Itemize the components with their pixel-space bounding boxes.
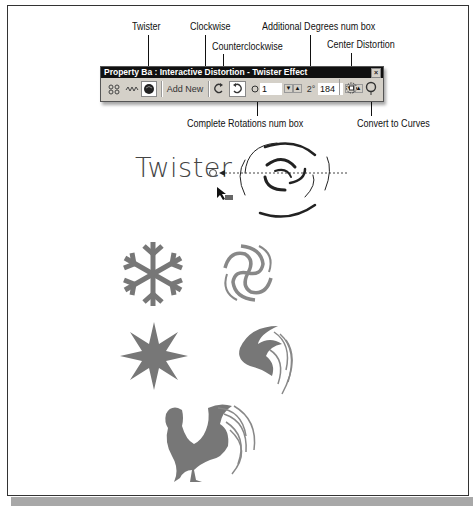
- rotations-spin-down[interactable]: ▼: [284, 84, 293, 93]
- twister-icon: [142, 82, 156, 96]
- cursor-icon: [217, 187, 233, 200]
- clockwise-button[interactable]: [211, 81, 227, 97]
- rotations-label: [250, 81, 260, 97]
- add-new-button[interactable]: Add New: [165, 81, 205, 97]
- close-button[interactable]: ×: [371, 68, 381, 78]
- property-bar-title: Property Ba : Interactive Distortion - T…: [104, 67, 307, 77]
- callout-counterclockwise: Counterclockwise: [212, 40, 283, 52]
- callout-additional-degrees: Additional Degrees num box: [262, 20, 375, 32]
- rooster-twisted: [160, 400, 260, 486]
- complete-rotations-input[interactable]: 1: [260, 83, 282, 95]
- callout-convert-to-curves: Convert to Curves: [357, 117, 430, 129]
- property-bar-titlebar[interactable]: Property Ba : Interactive Distortion - T…: [101, 67, 383, 78]
- convert-to-curves-button[interactable]: [364, 80, 378, 96]
- push-pull-button[interactable]: [107, 81, 121, 97]
- property-bar: Property Ba : Interactive Distortion - T…: [100, 66, 384, 102]
- rotations-icon: [250, 81, 260, 97]
- twister-interactive-demo: [205, 135, 355, 225]
- zipper-button[interactable]: [125, 81, 139, 97]
- twister-button[interactable]: [141, 81, 157, 97]
- clockwise-icon: [212, 81, 226, 97]
- snowflake-twisted: [215, 240, 281, 306]
- frame-shadow: [11, 497, 473, 506]
- separator: [339, 79, 340, 95]
- counterclockwise-icon: [230, 82, 245, 96]
- callout-complete-rotations: Complete Rotations num box: [187, 117, 303, 129]
- callout-clockwise: Clockwise: [190, 20, 231, 32]
- separator: [208, 81, 210, 97]
- convert-to-curves-icon: [364, 80, 378, 96]
- distortion-center-handle: [210, 170, 217, 177]
- zipper-icon: [125, 81, 139, 97]
- rotations-spin-up[interactable]: ▲: [293, 84, 302, 93]
- callout-center-distortion: Center Distortion: [327, 38, 395, 50]
- star-twisted: [230, 320, 300, 400]
- center-distortion-button[interactable]: [344, 80, 359, 96]
- counterclockwise-button[interactable]: [229, 81, 246, 97]
- center-distortion-icon: [344, 80, 359, 96]
- degrees-icon: 2°: [305, 81, 317, 97]
- callout-twister: Twister: [132, 20, 161, 32]
- star-original: [118, 320, 190, 392]
- push-pull-icon: [107, 81, 121, 97]
- rotation-handle-arrow: [219, 170, 225, 176]
- separator: [161, 81, 163, 97]
- snowflake-original: [120, 240, 186, 308]
